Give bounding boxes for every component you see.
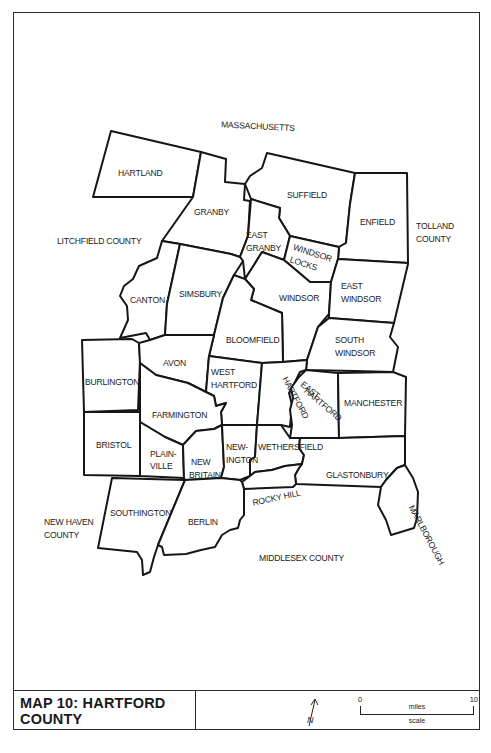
label-new-haven-county-1: NEW HAVEN — [44, 517, 94, 527]
north-arrow-icon — [301, 694, 331, 730]
label-plainville-2: VILLE — [150, 461, 173, 471]
label-bristol: BRISTOL — [96, 440, 132, 450]
label-plainville-1: PLAIN- — [150, 449, 177, 459]
label-wethersfield: WETHERSFIELD — [258, 442, 323, 452]
map-footer: MAP 10: HARTFORD COUNTY N 0 10 miles sca… — [13, 690, 480, 730]
map-title-line-2: COUNTY — [20, 711, 195, 727]
label-east-windsor-1: EAST — [341, 281, 364, 291]
hartford-county-map: MASSACHUSETTS LITCHFIELD COUNTY TOLLAND … — [0, 0, 491, 680]
label-east-granby-2: GRANBY — [246, 243, 282, 253]
label-bloomfield: BLOOMFIELD — [226, 335, 279, 345]
town-south-windsor[interactable] — [306, 318, 398, 372]
label-new-britain-2: BRITAIN — [189, 470, 221, 480]
label-newington-2: INGTON — [226, 455, 258, 465]
label-rocky-hill: ROCKY HILL — [252, 488, 302, 508]
scale-caption: scale — [358, 717, 476, 724]
label-manchester: MANCHESTER — [344, 398, 402, 408]
label-suffield: SUFFIELD — [287, 190, 327, 200]
label-south-windsor-1: SOUTH — [335, 335, 364, 345]
scale-units: miles — [358, 703, 476, 710]
label-canton: CANTON — [130, 295, 165, 305]
label-berlin: BERLIN — [188, 517, 218, 527]
label-litchfield-county: LITCHFIELD COUNTY — [57, 236, 142, 246]
label-tolland-county-1: TOLLAND — [416, 221, 454, 231]
map-title-line-1: MAP 10: HARTFORD — [20, 695, 195, 711]
label-tolland-county-2: COUNTY — [416, 234, 452, 244]
label-new-haven-county-2: COUNTY — [44, 530, 80, 540]
map-area: MASSACHUSETTS LITCHFIELD COUNTY TOLLAND … — [0, 0, 491, 680]
label-enfield: ENFIELD — [360, 217, 395, 227]
map-legend: N 0 10 miles scale — [196, 691, 480, 730]
label-glastonbury: GLASTONBURY — [326, 470, 389, 480]
label-massachusetts: MASSACHUSETTS — [221, 119, 296, 133]
town-burlington[interactable] — [82, 339, 140, 412]
label-windsor: WINDSOR — [279, 293, 319, 303]
label-hartland: HARTLAND — [118, 168, 163, 178]
town-east-windsor[interactable] — [329, 259, 408, 323]
label-east-granby-1: EAST — [246, 230, 269, 240]
label-farmington: FARMINGTON — [152, 410, 207, 420]
scale-bar: 0 10 miles scale — [358, 691, 478, 731]
label-marlborough: MARLBOROUGH — [407, 503, 447, 566]
label-west-hartford-2: HARTFORD — [211, 380, 257, 390]
label-avon: AVON — [163, 358, 186, 368]
label-east-windsor-2: WINDSOR — [341, 294, 381, 304]
label-southington: SOUTHINGTON — [110, 508, 171, 518]
map-title: MAP 10: HARTFORD COUNTY — [13, 691, 196, 730]
label-middlesex-county: MIDDLESEX COUNTY — [259, 553, 345, 563]
label-newington-1: NEW- — [226, 442, 248, 452]
label-new-britain-1: NEW — [191, 457, 212, 467]
label-burlington: BURLINGTON — [85, 377, 139, 387]
label-south-windsor-2: WINDSOR — [335, 348, 375, 358]
label-granby: GRANBY — [194, 207, 230, 217]
north-label: N — [307, 715, 314, 725]
town-hartland[interactable] — [93, 131, 201, 197]
label-simsbury: SIMSBURY — [179, 289, 223, 299]
label-west-hartford-1: WEST — [211, 367, 236, 377]
